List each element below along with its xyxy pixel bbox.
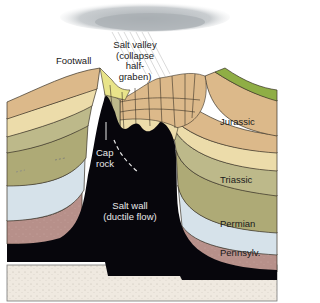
label-permian: Permian — [220, 219, 255, 230]
label-triassic: Triassic — [220, 175, 252, 186]
label-pennsylvanian: Pennsylv. — [220, 248, 260, 259]
cloud-icon — [60, 2, 230, 32]
label-salt-valley: Salt valley (collapse half- graben) — [105, 40, 165, 82]
label-salt-wall: Salt wall (ductile flow) — [100, 201, 160, 222]
label-footwall: Footwall — [56, 56, 91, 67]
label-cap-rock: Cap rock — [96, 148, 114, 169]
label-jurassic: Jurassic — [220, 117, 255, 128]
